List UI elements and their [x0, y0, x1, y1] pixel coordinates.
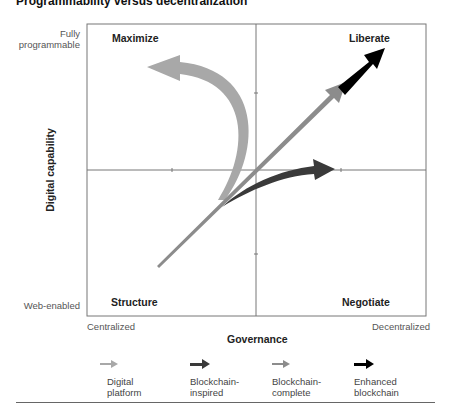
legend-arrow-blockchain-complete — [272, 360, 290, 368]
legend-arrow-blockchain-inspired — [190, 359, 210, 369]
legend-arrow-digital-platform — [100, 360, 118, 368]
x-axis-title: Governance — [227, 333, 288, 345]
legend-label-line2: blockchain — [354, 387, 399, 398]
quadrant-structure: Structure — [111, 296, 158, 308]
legend-label-line2: platform — [107, 387, 141, 398]
legend-label-line2: inspired — [190, 387, 239, 398]
quadrant-negotiate: Negotiate — [342, 296, 390, 308]
legend-label-line2: complete — [272, 387, 321, 398]
legend-label-line1: Blockchain- — [190, 376, 239, 387]
legend-arrow-enhanced-blockchain — [354, 359, 374, 369]
legend-label-line1: Digital — [107, 376, 141, 387]
legend-item-enhanced-blockchain: Enhanced blockchain — [354, 376, 399, 398]
legend-item-digital-platform: Digital platform — [107, 376, 141, 398]
quadrant-plot — [0, 0, 450, 420]
legend-label-line1: Enhanced — [354, 376, 399, 387]
quadrant-liberate: Liberate — [349, 32, 390, 44]
legend-label-line1: Blockchain- — [272, 376, 321, 387]
bottom-divider — [16, 402, 435, 403]
x-left-label: Centralized — [87, 321, 135, 332]
legend-item-blockchain-complete: Blockchain- complete — [272, 376, 321, 398]
enhanced-blockchain-arrow — [338, 48, 385, 95]
legend-item-blockchain-inspired: Blockchain- inspired — [190, 376, 239, 398]
quadrant-maximize: Maximize — [112, 32, 159, 44]
x-right-label: Decentralized — [372, 321, 430, 332]
digital-platform-arrow — [147, 55, 249, 200]
